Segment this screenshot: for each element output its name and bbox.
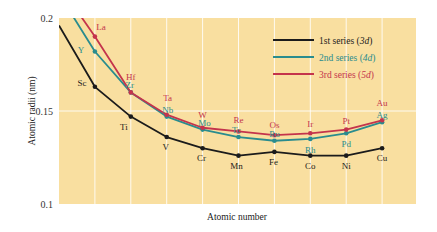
data-point xyxy=(200,146,205,151)
legend-label: 2nd series (4d) xyxy=(319,53,375,64)
x-axis-title: Atomic number xyxy=(207,212,268,222)
point-label: Y xyxy=(78,45,85,55)
point-label: Ta xyxy=(163,93,172,103)
chart: 0.10.150.2 Atomic number Atomic radii (n… xyxy=(0,0,437,232)
data-point xyxy=(93,34,98,39)
point-label: Sc xyxy=(77,78,86,88)
point-label: Os xyxy=(269,120,279,130)
legend-label: 1st series (3d) xyxy=(319,36,372,47)
data-point xyxy=(129,90,134,95)
point-label: Fe xyxy=(269,157,278,167)
point-label: Co xyxy=(305,161,316,171)
point-label: Ni xyxy=(342,161,351,171)
y-axis: 0.10.150.2 xyxy=(36,13,54,210)
data-point xyxy=(380,146,385,151)
data-point xyxy=(272,150,277,155)
point-label: Hf xyxy=(126,72,136,82)
point-label: W xyxy=(198,110,207,120)
y-tick-label: 0.2 xyxy=(41,13,54,24)
data-point xyxy=(236,153,241,158)
point-label: Ru xyxy=(269,129,280,139)
point-label: La xyxy=(96,22,106,32)
point-label: Ag xyxy=(377,110,388,120)
point-label: Cu xyxy=(377,153,388,163)
legend-label: 3rd series (5d) xyxy=(319,70,374,81)
data-point xyxy=(93,49,98,54)
point-label: Tc xyxy=(232,125,241,135)
data-point xyxy=(272,138,277,143)
point-label: Ti xyxy=(120,122,128,132)
data-point xyxy=(308,131,313,136)
point-label: Rh xyxy=(305,145,316,155)
point-label: Cr xyxy=(197,153,206,163)
point-label: V xyxy=(162,142,169,152)
point-label: Au xyxy=(377,98,388,108)
data-point xyxy=(344,127,349,132)
data-point xyxy=(93,85,98,90)
point-label: Pt xyxy=(342,116,350,126)
y-axis-title: Atomic radii (nm) xyxy=(27,76,38,145)
data-point xyxy=(236,135,241,140)
data-point xyxy=(344,153,349,158)
data-point xyxy=(164,135,169,140)
point-label: Mn xyxy=(230,161,243,171)
data-point xyxy=(129,114,134,119)
point-label: Pd xyxy=(341,139,351,149)
point-label: Nb xyxy=(162,105,173,115)
point-label: Re xyxy=(234,115,244,125)
y-tick-label: 0.1 xyxy=(41,199,54,210)
point-label: Ir xyxy=(307,119,313,129)
y-tick-label: 0.15 xyxy=(36,106,54,117)
data-point xyxy=(308,137,313,142)
